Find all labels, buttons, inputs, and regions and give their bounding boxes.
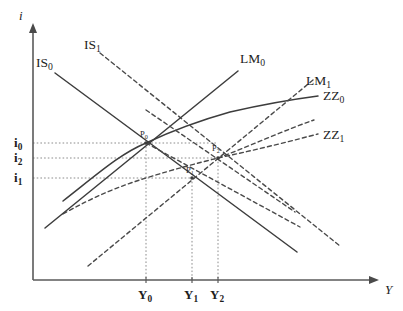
x-tick-label-y0: Y0 bbox=[138, 288, 152, 304]
y-tick-label-i1: i1 bbox=[14, 171, 22, 187]
y-axis-label: i bbox=[19, 9, 23, 22]
x-axis-arrow bbox=[369, 276, 379, 284]
axes-group bbox=[29, 23, 379, 284]
curve-label-lm0: LM0 bbox=[240, 52, 265, 67]
point-marker-p2 bbox=[216, 156, 220, 160]
point-label-p0: P0 bbox=[140, 130, 148, 140]
y-axis-arrow bbox=[29, 23, 37, 33]
curve-lm0 bbox=[45, 71, 238, 228]
is-lm-zz-figure: i Y i0 i2 i1 Y0 Y1 Y2 IS0 IS1 LM0 LM1 ZZ… bbox=[0, 0, 403, 311]
point-marker-p1 bbox=[190, 176, 194, 180]
curve-is1 bbox=[100, 53, 340, 246]
x-axis-label: Y bbox=[385, 283, 392, 296]
curve-is-through-p2 bbox=[146, 110, 295, 212]
point-label-p1: P1 bbox=[186, 166, 194, 176]
point-marker-p0 bbox=[144, 141, 148, 145]
diagram-canvas bbox=[0, 0, 403, 311]
curve-lm1-down-branch bbox=[146, 143, 300, 227]
y-tick-label-i2: i2 bbox=[14, 151, 22, 167]
curve-is0 bbox=[55, 73, 297, 252]
guide-lines bbox=[33, 143, 218, 280]
curve-label-zz0: ZZ0 bbox=[323, 89, 344, 104]
curve-zz0 bbox=[63, 96, 318, 201]
x-tick-label-y2: Y2 bbox=[210, 288, 224, 304]
curve-label-is0: IS0 bbox=[36, 56, 53, 71]
curve-label-zz1: ZZ1 bbox=[323, 128, 344, 143]
curve-label-is1: IS1 bbox=[84, 38, 101, 53]
point-label-p2: P2 bbox=[212, 144, 220, 154]
x-tick-label-y1: Y1 bbox=[184, 288, 198, 304]
